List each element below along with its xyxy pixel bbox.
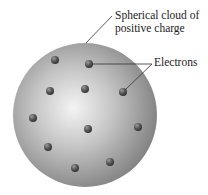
electron — [71, 164, 79, 172]
electrons-label: Electrons — [154, 56, 197, 69]
electron — [84, 125, 92, 133]
electron — [51, 56, 59, 64]
electron — [44, 143, 52, 151]
cloud-leader-line — [86, 16, 112, 43]
electron — [81, 85, 89, 93]
electron — [134, 123, 142, 131]
cloud-label-line2: positive charge — [115, 22, 199, 35]
electron — [85, 60, 93, 68]
cloud-label-line1: Spherical cloud of — [115, 9, 199, 22]
electron — [46, 87, 54, 95]
cloud-label: Spherical cloud of positive charge — [115, 9, 199, 35]
electron — [29, 114, 37, 122]
electron — [106, 158, 114, 166]
thomson-atom-diagram: Spherical cloud of positive charge Elect… — [0, 0, 208, 195]
